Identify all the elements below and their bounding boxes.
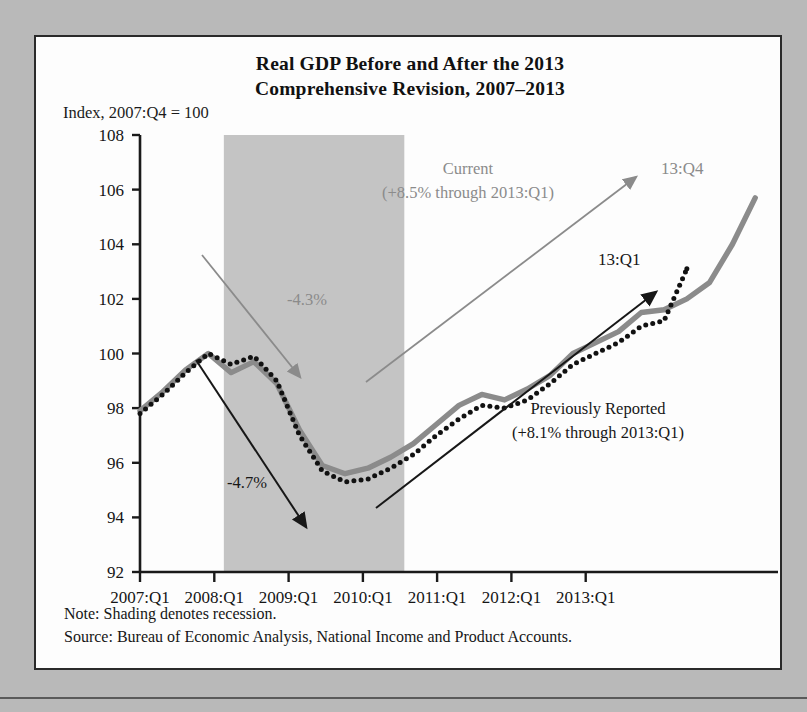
figure-note: Note: Shading denotes recession. bbox=[64, 602, 572, 625]
previous-endpoint-label: 13:Q1 bbox=[598, 250, 641, 269]
page-bottom-rule bbox=[0, 697, 807, 699]
y-tick-label: 102 bbox=[99, 290, 125, 309]
current-label-line-2: (+8.5% through 2013:Q1) bbox=[382, 183, 554, 202]
y-axis-tick-labels: 108 106 104 102 100 98 96 94 92 bbox=[99, 126, 125, 582]
y-tick-label: 96 bbox=[107, 454, 124, 473]
y-tick-label: 108 bbox=[99, 126, 125, 145]
previous-drop-label: -4.7% bbox=[227, 473, 267, 492]
current-endpoint-label: 13:Q4 bbox=[661, 159, 704, 178]
chart-plot-area: 108 106 104 102 100 98 96 94 92 2007:Q1 … bbox=[36, 37, 784, 672]
series-line-previously-reported bbox=[138, 266, 690, 484]
figure-notes: Note: Shading denotes recession. Source:… bbox=[64, 602, 572, 648]
y-tick-label: 92 bbox=[107, 563, 124, 582]
y-tick-label: 94 bbox=[107, 508, 125, 527]
figure-source: Source: Bureau of Economic Analysis, Nat… bbox=[64, 625, 572, 648]
y-tick-label: 104 bbox=[99, 235, 125, 254]
y-tick-label: 100 bbox=[99, 345, 125, 364]
previously-reported-label-line-2: (+8.1% through 2013:Q1) bbox=[512, 423, 684, 442]
previously-reported-label-line-1: Previously Reported bbox=[530, 399, 666, 418]
figure-panel: Real GDP Before and After the 2013 Compr… bbox=[34, 35, 782, 670]
y-tick-label: 98 bbox=[107, 399, 124, 418]
y-tick-label: 106 bbox=[99, 181, 125, 200]
current-drop-label: -4.3% bbox=[287, 290, 327, 309]
x-axis-ticks bbox=[140, 572, 586, 582]
current-label-line-1: Current bbox=[443, 159, 494, 178]
